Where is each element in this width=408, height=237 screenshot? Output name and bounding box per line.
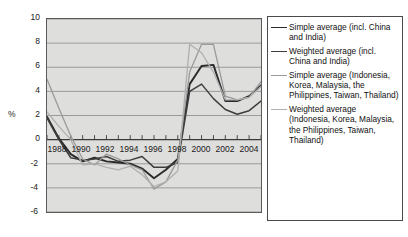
legend-item-label: Weighted average (incl. China and India) [289,46,399,67]
legend-item[interactable]: Simple average (Indonesia, Korea, Malays… [271,70,399,101]
plot-area [46,18,262,213]
x-tick-marks [47,135,261,140]
y-tick-label: -2 [8,159,38,168]
x-tick-label: 2004 [232,145,266,154]
legend-item-label: Weighted average (Indonesia, Korea, Mala… [289,104,399,146]
y-tick-label: -6 [8,207,38,216]
legend-item[interactable]: Simple average (incl. China and India) [271,22,399,43]
legend-item-label: Simple average (Indonesia, Korea, Malays… [289,70,399,101]
legend-line-swatch-icon [271,22,287,33]
legend-item[interactable]: Weighted average (Indonesia, Korea, Mala… [271,104,399,146]
chart-figure: 10 8 6 4 2 0 -2 -4 -6 % 1988 1990 1992 1… [0,0,408,237]
y-tick-label: -4 [8,183,38,192]
legend: Simple average (incl. China and India) W… [267,16,403,221]
y-tick-label: 0 [10,134,40,143]
y-tick-label: 6 [10,61,40,70]
legend-line-swatch-icon [271,70,287,81]
legend-item-label: Simple average (incl. China and India) [289,22,399,43]
legend-item[interactable]: Weighted average (incl. China and India) [271,46,399,67]
legend-line-swatch-icon [271,46,287,57]
y-tick-label: 8 [10,37,40,46]
series-line [47,65,261,178]
y-axis-title: % [8,110,16,119]
legend-line-swatch-icon [271,104,287,115]
gridlines [47,19,261,212]
data-series-layer [47,44,261,189]
y-tick-label: 4 [10,86,40,95]
y-tick-label: 10 [10,13,40,22]
series-canvas [47,19,261,212]
